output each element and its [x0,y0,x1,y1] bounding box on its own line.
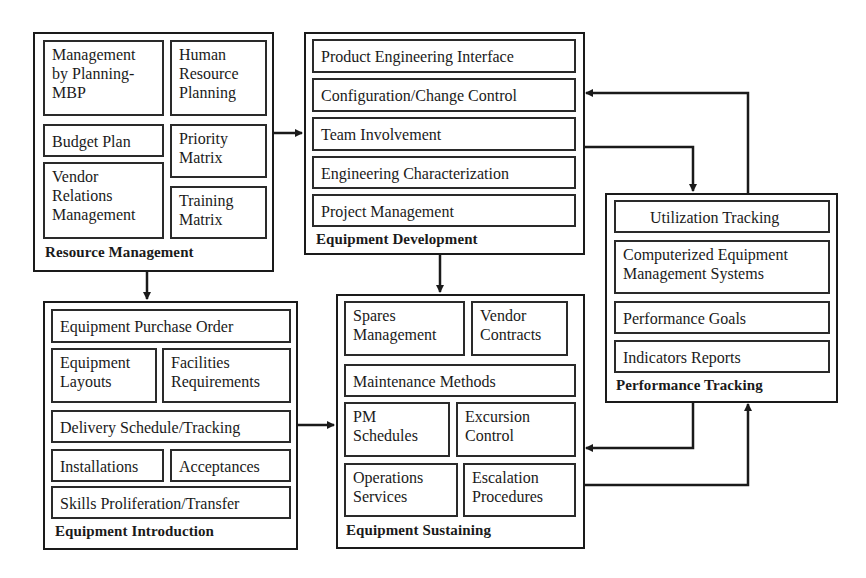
project-management-label: Project Management [321,202,574,221]
operations-line-1: Operations [353,468,456,487]
vendor-line-1: Vendor [52,167,162,186]
delivery-schedule-box: Delivery Schedule/Tracking [51,410,291,443]
excursion-control-box: Excursion Control [456,402,576,457]
product-engineering-interface-label: Product Engineering Interface [321,47,574,66]
equipment-introduction-title: Equipment Introduction [55,523,214,540]
maintenance-methods-box: Maintenance Methods [344,364,576,397]
escalation-procedures-box: Escalation Procedures [463,463,576,517]
excursion-line-1: Excursion [465,407,574,426]
vendor-contracts-box: Vendor Contracts [471,301,568,356]
pm-line-1: PM [353,407,448,426]
engineering-characterization-box: Engineering Characterization [312,156,576,189]
acceptances-label: Acceptances [179,457,289,476]
hrp-line-1: Human [179,45,265,64]
performance-goals-label: Performance Goals [623,309,828,328]
budget-plan-box: Budget Plan [43,124,164,157]
equipment-development-title: Equipment Development [316,231,478,248]
hrp-box: Human Resource Planning [170,40,267,116]
escalation-line-2: Procedures [472,487,574,506]
operations-line-2: Services [353,487,456,506]
hrp-line-3: Planning [179,83,265,102]
installations-label: Installations [60,457,162,476]
training-line-1: Training [179,191,265,210]
cems-box: Computerized Equipment Management System… [614,240,830,294]
configuration-change-control-label: Configuration/Change Control [321,86,574,105]
mbp-line-1: Management [52,45,162,64]
priority-line-1: Priority [179,129,265,148]
equipment-layouts-box: Equipment Layouts [51,348,157,403]
equipment-purchase-order-label: Equipment Purchase Order [60,317,289,336]
excursion-line-2: Control [465,426,574,445]
vendor-relations-box: Vendor Relations Management [43,162,164,239]
spares-line-1: Spares [353,306,463,325]
facilities-line-2: Requirements [171,372,289,391]
vendor-contracts-line-1: Vendor [480,306,566,325]
vendor-line-3: Management [52,205,162,224]
hrp-line-2: Resource [179,64,265,83]
utilization-tracking-box: Utilization Tracking [614,200,830,233]
operations-services-box: Operations Services [344,463,458,517]
team-involvement-label: Team Involvement [321,125,574,144]
delivery-schedule-label: Delivery Schedule/Tracking [60,418,289,437]
mbp-line-3: MBP [52,83,162,102]
indicators-reports-label: Indicators Reports [623,348,828,367]
vendor-line-2: Relations [52,186,162,205]
budget-plan-label: Budget Plan [52,132,162,151]
facilities-line-1: Facilities [171,353,289,372]
engineering-characterization-label: Engineering Characterization [321,164,574,183]
installations-box: Installations [51,449,164,482]
indicators-reports-box: Indicators Reports [614,340,830,373]
facilities-requirements-box: Facilities Requirements [162,348,291,403]
pm-line-2: Schedules [353,426,448,445]
skills-proliferation-box: Skills Proliferation/Transfer [51,486,291,519]
cems-line-2: Management Systems [623,264,828,283]
equipment-purchase-order-box: Equipment Purchase Order [51,309,291,343]
layouts-line-1: Equipment [60,353,155,372]
configuration-change-control-box: Configuration/Change Control [312,78,576,112]
equipment-sustaining-title: Equipment Sustaining [346,522,491,539]
vendor-contracts-line-2: Contracts [480,325,566,344]
skills-proliferation-label: Skills Proliferation/Transfer [60,494,289,513]
team-involvement-box: Team Involvement [312,117,576,151]
priority-line-2: Matrix [179,148,265,167]
escalation-line-1: Escalation [472,468,574,487]
project-management-box: Project Management [312,194,576,227]
pm-schedules-box: PM Schedules [344,402,450,457]
spares-line-2: Management [353,325,463,344]
acceptances-box: Acceptances [170,449,291,482]
product-engineering-interface-box: Product Engineering Interface [312,39,576,73]
training-matrix-box: Training Matrix [170,186,267,239]
cems-line-1: Computerized Equipment [623,245,828,264]
performance-tracking-title: Performance Tracking [616,377,763,394]
training-line-2: Matrix [179,210,265,229]
performance-goals-box: Performance Goals [614,301,830,334]
mbp-line-2: by Planning- [52,64,162,83]
utilization-tracking-label: Utilization Tracking [650,208,828,227]
maintenance-methods-label: Maintenance Methods [353,372,574,391]
priority-matrix-box: Priority Matrix [170,124,267,178]
layouts-line-2: Layouts [60,372,155,391]
resource-management-title: Resource Management [45,244,194,261]
mbp-box: Management by Planning- MBP [43,40,164,116]
spares-management-box: Spares Management [344,301,465,356]
